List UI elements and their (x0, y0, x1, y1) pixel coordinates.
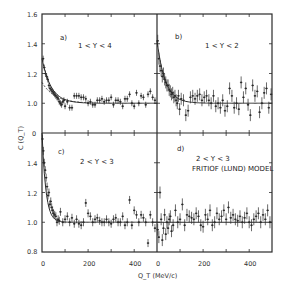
xtick-200-left: 200 (83, 260, 95, 268)
ytick-1.2: 1.2 (27, 71, 37, 79)
ytick-1.4-bottom: 1.4 (27, 160, 37, 168)
panel-b-range: 1 < Y < 2 (205, 42, 239, 50)
panel-a-label: a) (60, 34, 67, 42)
ytick-0.8-bottom: 0.8 (27, 248, 37, 256)
ytick-1.6: 1.6 (27, 11, 37, 19)
xtick-0-right: 0 (156, 260, 160, 268)
panel-c-label: c) (58, 148, 65, 156)
ytick-1.2-bottom: 1.2 (27, 190, 37, 198)
panel-d-model: FRITIOF (LUND) MODEL (192, 165, 273, 173)
panel-c-range: 2 < Y < 3 (80, 158, 114, 166)
y-axis-title: C (Q_T) (17, 126, 25, 150)
figure: 1.6 1.4 1.2 1.0 0 1.4 1.2 1.0 0.8 0 200 … (0, 0, 283, 285)
xtick-400-right: 400 (244, 260, 256, 268)
x-axis-title: Q_T (MeV/c) (138, 272, 177, 280)
panel-b-label: b) (175, 33, 182, 41)
panel-a-range: 1 < Y < 4 (78, 42, 112, 50)
ytick-1.0-bottom: 1.0 (27, 219, 37, 227)
ytick-1.0: 1.0 (27, 100, 37, 108)
panel-d-range: 2 < Y < 3 (196, 155, 230, 163)
ytick-1.4: 1.4 (27, 41, 37, 49)
xtick-200-right: 200 (198, 260, 210, 268)
xtick-0-left: 0 (41, 260, 45, 268)
panel-d-label: d) (177, 145, 184, 153)
xtick-400-left: 400 (129, 260, 141, 268)
ytick-0: 0 (32, 130, 36, 138)
